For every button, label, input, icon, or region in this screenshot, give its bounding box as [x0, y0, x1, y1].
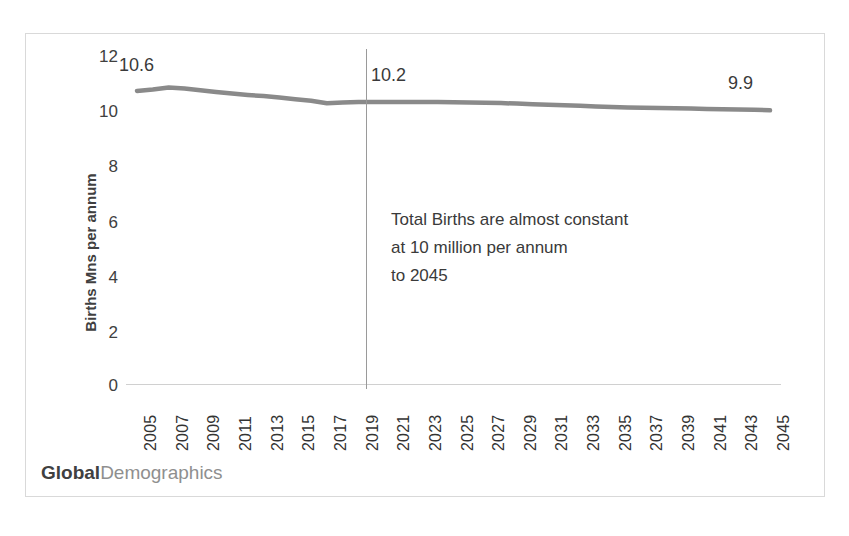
- x-tick-2031: 2031: [554, 415, 570, 451]
- annotation-text-block: Total Births are almost constant at 10 m…: [391, 206, 628, 290]
- brand-logo: GlobalDemographics: [41, 462, 223, 484]
- x-tick-2007: 2007: [175, 415, 191, 451]
- forecast-divider-line: [366, 49, 367, 389]
- x-tick-2045: 2045: [776, 415, 792, 451]
- x-tick-2023: 2023: [428, 415, 444, 451]
- x-axis-baseline: [126, 384, 781, 385]
- x-tick-2021: 2021: [396, 415, 412, 451]
- brand-name-secondary: Demographics: [100, 462, 223, 483]
- y-tick-0: 0: [84, 377, 118, 394]
- y-axis-title: Births Mns per annum: [82, 153, 99, 353]
- x-tick-2043: 2043: [744, 415, 760, 451]
- x-tick-2037: 2037: [649, 415, 665, 451]
- x-tick-2035: 2035: [618, 415, 634, 451]
- x-tick-2011: 2011: [238, 416, 254, 451]
- x-tick-2009: 2009: [206, 415, 222, 451]
- x-tick-2013: 2013: [270, 415, 286, 451]
- annotation-line-1: Total Births are almost constant: [391, 206, 628, 234]
- callout-end-value: 9.9: [728, 74, 753, 92]
- callout-divider-value: 10.2: [371, 66, 406, 84]
- x-axis-tick-labels: 2005200720092011201320152017201920212023…: [126, 389, 781, 469]
- x-tick-2041: 2041: [713, 415, 729, 451]
- x-tick-2005: 2005: [143, 415, 159, 451]
- y-axis-title-wrapper: Births Mns per annum: [60, 94, 84, 394]
- x-tick-2015: 2015: [301, 415, 317, 451]
- x-tick-2025: 2025: [460, 415, 476, 451]
- chart-figure: 12 10 8 6 4 2 0 Births Mns per annum 10.…: [25, 33, 825, 497]
- x-tick-2017: 2017: [333, 415, 349, 451]
- brand-name-primary: Global: [41, 462, 100, 483]
- x-tick-2029: 2029: [523, 415, 539, 451]
- callout-start-value: 10.6: [119, 56, 154, 74]
- x-tick-2027: 2027: [491, 415, 507, 451]
- y-tick-10: 10: [84, 103, 118, 120]
- x-tick-2019: 2019: [365, 415, 381, 451]
- annotation-line-2: at 10 million per annum: [391, 234, 628, 262]
- x-tick-2033: 2033: [586, 415, 602, 451]
- annotation-line-3: to 2045: [391, 262, 628, 290]
- y-tick-12: 12: [84, 48, 118, 65]
- x-tick-2039: 2039: [681, 415, 697, 451]
